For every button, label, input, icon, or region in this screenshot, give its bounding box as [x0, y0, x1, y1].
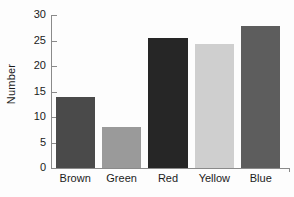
- y-axis-tick-label: 5: [0, 136, 46, 148]
- y-axis-tick-label: 25: [0, 34, 46, 46]
- y-axis-tick-label: 15: [0, 85, 46, 97]
- bar-blue: [241, 26, 280, 168]
- y-axis-tick-label: 10: [0, 110, 46, 122]
- x-axis-label-green: Green: [98, 172, 144, 184]
- bar-yellow: [195, 44, 234, 168]
- x-axis-label-blue: Blue: [238, 172, 284, 184]
- bar-green: [102, 127, 141, 168]
- bar-chart: Number 051015202530 BrownGreenRedYellowB…: [0, 0, 294, 197]
- x-axis-label-red: Red: [145, 172, 191, 184]
- y-axis-tick-label: 20: [0, 59, 46, 71]
- x-axis-label-brown: Brown: [52, 172, 98, 184]
- y-axis-tick-mark: [52, 168, 57, 169]
- y-axis-tick-label: 30: [0, 8, 46, 20]
- bar-brown: [56, 97, 95, 168]
- y-axis-tick-label: 0: [0, 161, 46, 173]
- x-axis-category-labels: BrownGreenRedYellowBlue: [52, 172, 284, 194]
- y-axis-tick: 0: [0, 168, 294, 169]
- x-axis-label-yellow: Yellow: [191, 172, 237, 184]
- bar-red: [148, 38, 187, 168]
- plot-area: [52, 15, 284, 168]
